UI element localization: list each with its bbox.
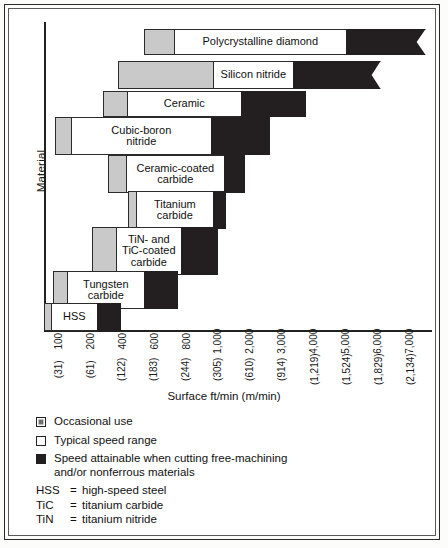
bar-segment-attainable	[213, 191, 226, 229]
x-tick-label: 200(61)	[82, 336, 100, 398]
bar-label: Ceramic-coated carbide	[133, 163, 217, 186]
bar-segment-attainable	[211, 117, 270, 155]
bar-label: Cubic-boron nitride	[108, 125, 174, 148]
legend-item: Occasional use	[36, 415, 416, 429]
bar-segment-occasional	[118, 61, 214, 89]
x-tick-label: 2,000(610)	[242, 336, 260, 398]
legend-item: Typical speed range	[36, 434, 416, 448]
abbreviation-key: TiN	[36, 512, 70, 527]
bar-segment-attainable	[346, 29, 426, 55]
legend-label: Speed attainable when cutting free-machi…	[54, 452, 287, 479]
bar-label: Polycrystalline diamond	[200, 36, 322, 48]
legend-item: Speed attainable when cutting free-machi…	[36, 452, 416, 479]
bar-segment-attainable	[144, 271, 178, 309]
bar-label: Ceramic	[161, 98, 208, 110]
abbreviation-key: HSS	[36, 483, 70, 498]
x-tick-label: 3,000(914)	[274, 336, 292, 398]
legend-swatch-attainable	[36, 454, 46, 464]
x-tick-label: 800(244)	[178, 336, 196, 398]
bar-label: TiN- and TiC-coated carbide	[119, 234, 178, 269]
bar-segment-attainable	[241, 91, 306, 117]
bar-segment-occasional	[92, 227, 117, 275]
bar-ceramic-coated-carbide: Ceramic-coated carbide	[108, 155, 247, 193]
x-tick-label: 600(183)	[146, 336, 164, 398]
bar-segment-attainable	[181, 227, 218, 275]
y-axis-title: Material	[35, 126, 47, 216]
bar-segment-typical: Silicon nitride	[213, 61, 294, 89]
bar-silicon-nitride: Silicon nitride	[118, 61, 383, 89]
x-tick-label: 400(122)	[114, 336, 132, 398]
legend-swatch-typical	[36, 436, 46, 446]
bar-segment-occasional	[144, 29, 175, 55]
legend: Occasional useTypical speed rangeSpeed a…	[36, 415, 416, 484]
bar-segment-typical: Titanium carbide	[136, 191, 214, 229]
x-tick-label: 4,000(1,219)	[306, 336, 324, 398]
bar-polycrystalline-diamond: Polycrystalline diamond	[144, 29, 428, 55]
abbreviation-equals: =	[70, 512, 82, 527]
abbreviation-value: titanium nitride	[82, 512, 416, 527]
bar-segment-typical: Polycrystalline diamond	[174, 29, 347, 55]
bar-segment-occasional	[55, 117, 72, 155]
bar-label: HSS	[60, 311, 89, 323]
bar-tin-and-tic-coated-carbide: TiN- and TiC-coated carbide	[92, 227, 220, 275]
x-tick-label: 5,000(1,524)	[338, 336, 356, 398]
bar-segment-typical: Cubic-boron nitride	[71, 117, 212, 155]
bar-hss: HSS	[44, 303, 123, 331]
legend-label: Occasional use	[54, 415, 133, 429]
bar-titanium-carbide: Titanium carbide	[128, 191, 228, 229]
bar-segment-typical: TiN- and TiC-coated carbide	[116, 227, 182, 275]
bar-segment-occasional	[108, 155, 127, 193]
abbreviation-row: TiN=titanium nitride	[36, 512, 416, 527]
bar-cubic-boron-nitride: Cubic-boron nitride	[55, 117, 272, 155]
bar-label: Silicon nitride	[218, 69, 289, 81]
bar-segment-attainable	[224, 155, 245, 193]
x-axis-title: Surface ft/min (m/min)	[0, 390, 448, 402]
abbreviation-equals: =	[70, 483, 82, 498]
abbreviation-key: TiC	[36, 498, 70, 513]
bar-label: Titanium carbide	[151, 199, 199, 222]
x-tick-label: 6,000(1,829)	[370, 336, 388, 398]
bar-segment-typical: HSS	[51, 303, 98, 331]
bar-ceramic: Ceramic	[103, 91, 308, 117]
figure-container: Material Polycrystalline diamondSilicon …	[0, 0, 448, 548]
bar-segment-occasional	[103, 91, 128, 117]
abbreviation-row: HSS=high-speed steel	[36, 483, 416, 498]
abbreviation-list: HSS=high-speed steelTiC=titanium carbide…	[36, 483, 416, 527]
abbreviation-value: titanium carbide	[82, 498, 416, 513]
bar-segment-attainable	[97, 303, 121, 331]
bar-segment-typical: Ceramic	[127, 91, 242, 117]
x-tick-label: 7,000(2,134)	[402, 336, 420, 398]
bar-segment-typical: Ceramic-coated carbide	[126, 155, 225, 193]
abbreviation-row: TiC=titanium carbide	[36, 498, 416, 513]
legend-swatch-occasional	[36, 417, 46, 427]
x-tick-label: 1,000(305)	[210, 336, 228, 398]
abbreviation-value: high-speed steel	[82, 483, 416, 498]
abbreviation-equals: =	[70, 498, 82, 513]
x-tick-label: 100(31)	[50, 336, 68, 398]
bar-label: Tungsten carbide	[80, 279, 131, 302]
legend-label: Typical speed range	[54, 434, 157, 448]
bar-segment-attainable	[293, 61, 381, 89]
